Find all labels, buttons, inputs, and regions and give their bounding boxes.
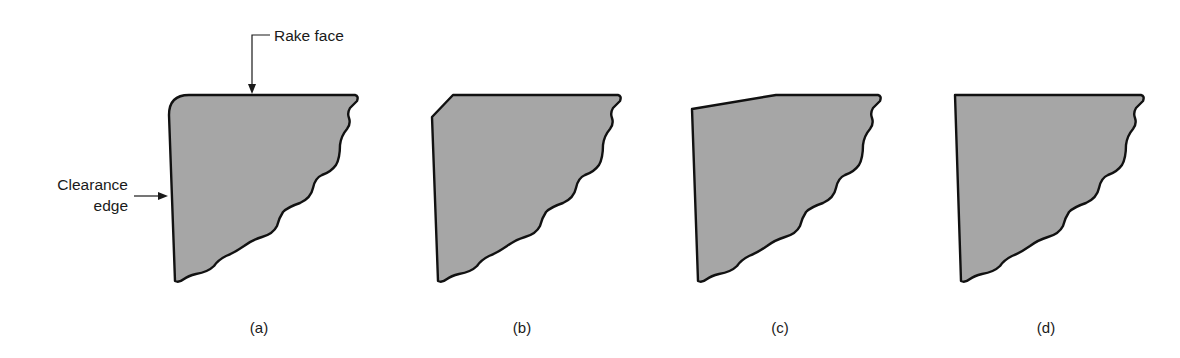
clearance-edge-label-line1: Clearance	[57, 176, 128, 193]
panel-label-a: (a)	[250, 319, 268, 336]
panel-b: (b)	[432, 95, 621, 336]
panel-a: Rake face Clearance edge (a)	[57, 27, 357, 336]
clearance-edge-label-line2: edge	[94, 197, 128, 214]
panel-c: (c)	[692, 95, 881, 336]
clearance-edge-arrow-icon	[158, 192, 168, 200]
panel-label-d: (d)	[1037, 319, 1055, 336]
panel-label-c: (c)	[771, 319, 789, 336]
tool-profile-chamfered	[432, 95, 621, 282]
tool-profile-sharp	[955, 95, 1144, 282]
edge-preparation-diagram: Rake face Clearance edge (a) (b) (c) (d)	[0, 0, 1180, 358]
rake-face-arrow-icon	[248, 84, 256, 94]
rake-face-leader-line	[252, 35, 270, 86]
tool-profile-negative-land	[692, 95, 881, 282]
panel-d: (d)	[955, 95, 1144, 336]
tool-profile-honed	[169, 95, 358, 282]
rake-face-label: Rake face	[274, 27, 344, 44]
panel-label-b: (b)	[513, 319, 531, 336]
